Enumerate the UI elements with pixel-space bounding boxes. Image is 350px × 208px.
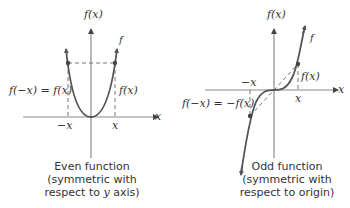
odd-caption-line3: respect to origin) (232, 186, 342, 199)
odd-y-axis-label: f(x) (267, 8, 286, 21)
even-curve-label: f (119, 34, 123, 45)
even-x-axis-label: x (155, 110, 161, 123)
even-point-left (66, 61, 70, 65)
odd-point-left (248, 114, 252, 118)
even-caption-prefix: respect to (45, 186, 104, 199)
even-caption-line3: respect to y axis) (44, 186, 140, 199)
odd-neg-x-tick: −x (241, 76, 256, 89)
even-curve-right (91, 49, 117, 117)
odd-curve-label: f (310, 32, 314, 43)
odd-caption-line1: Odd function (232, 160, 342, 173)
odd-curve-top-arrow (303, 26, 305, 34)
even-caption-suffix: axis) (110, 186, 140, 199)
odd-pos-x-tick: x (295, 92, 301, 105)
odd-x-axis-label: x (338, 83, 344, 96)
even-caption: Even function (symmetric with respect to… (44, 160, 140, 199)
odd-point-right (296, 62, 300, 66)
odd-caption: Odd function (symmetric with respect to … (232, 160, 342, 199)
even-y-axis-label: f(x) (84, 8, 103, 21)
odd-left-value-label: f(−x) = −f(x) (182, 97, 254, 110)
even-right-value-label: f(x) (119, 84, 138, 97)
odd-right-value-label: f(x) (301, 70, 320, 83)
even-neg-x-tick: −x (57, 119, 72, 132)
even-left-value-label: f(−x) = f(x) (9, 84, 72, 97)
even-caption-line2: (symmetric with (44, 173, 140, 186)
even-curve (66, 49, 91, 117)
odd-caption-line2: (symmetric with (232, 173, 342, 186)
even-pos-x-tick: x (112, 119, 118, 132)
even-caption-line1: Even function (44, 160, 140, 173)
even-point-right (113, 61, 117, 65)
